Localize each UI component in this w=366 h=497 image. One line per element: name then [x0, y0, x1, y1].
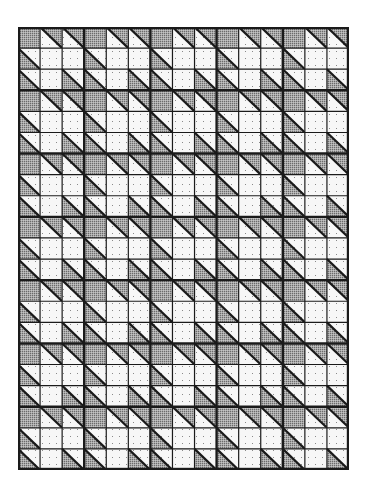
gray-square: [84, 90, 106, 111]
dotted-square: [106, 48, 128, 69]
gray-square: [84, 154, 106, 175]
dotted-square: [62, 238, 84, 259]
dotted-square: [305, 259, 327, 280]
dotted-square: [106, 175, 128, 196]
dotted-square: [40, 386, 62, 407]
dotted-square: [172, 69, 194, 90]
dotted-square: [261, 175, 283, 196]
dotted-square: [305, 48, 327, 69]
dotted-square: [305, 196, 327, 217]
dotted-square: [327, 111, 349, 132]
dotted-square: [305, 111, 327, 132]
gray-square: [84, 407, 106, 428]
dotted-square: [305, 175, 327, 196]
gray-square: [283, 217, 305, 238]
dotted-square: [305, 322, 327, 343]
dotted-square: [327, 48, 349, 69]
gray-square: [84, 27, 106, 48]
dotted-square: [305, 238, 327, 259]
gray-square: [217, 90, 239, 111]
dotted-square: [239, 301, 261, 322]
dotted-square: [239, 69, 261, 90]
gray-square: [150, 407, 172, 428]
gray-square: [18, 280, 40, 301]
dotted-square: [40, 48, 62, 69]
dotted-square: [62, 365, 84, 386]
dotted-square: [106, 365, 128, 386]
dotted-square: [128, 365, 150, 386]
dotted-square: [172, 132, 194, 153]
gray-square: [283, 90, 305, 111]
dotted-square: [305, 132, 327, 153]
dotted-square: [40, 428, 62, 449]
gray-square: [150, 90, 172, 111]
dotted-square: [239, 238, 261, 259]
dotted-square: [172, 111, 194, 132]
dotted-square: [172, 322, 194, 343]
dotted-square: [40, 365, 62, 386]
dotted-square: [128, 238, 150, 259]
dotted-square: [106, 428, 128, 449]
dotted-square: [106, 132, 128, 153]
dotted-square: [305, 449, 327, 470]
dotted-square: [195, 428, 217, 449]
dotted-square: [106, 386, 128, 407]
dotted-square: [195, 111, 217, 132]
dotted-square: [327, 175, 349, 196]
dotted-square: [40, 238, 62, 259]
dotted-square: [305, 69, 327, 90]
dotted-square: [305, 386, 327, 407]
dotted-square: [195, 301, 217, 322]
gray-square: [84, 343, 106, 364]
dotted-square: [40, 175, 62, 196]
dotted-square: [40, 259, 62, 280]
dotted-square: [40, 322, 62, 343]
dotted-square: [239, 322, 261, 343]
dotted-square: [62, 428, 84, 449]
gray-square: [150, 343, 172, 364]
dotted-square: [106, 259, 128, 280]
dotted-square: [195, 365, 217, 386]
gray-square: [217, 154, 239, 175]
dotted-square: [40, 69, 62, 90]
dotted-square: [128, 428, 150, 449]
dotted-square: [172, 428, 194, 449]
dotted-square: [305, 428, 327, 449]
gray-square: [18, 154, 40, 175]
dotted-square: [239, 386, 261, 407]
gray-square: [84, 280, 106, 301]
dotted-square: [172, 48, 194, 69]
quilt-svg: [18, 27, 349, 470]
gray-square: [283, 407, 305, 428]
gray-square: [150, 280, 172, 301]
dotted-square: [305, 301, 327, 322]
dotted-square: [261, 111, 283, 132]
dotted-square: [40, 196, 62, 217]
dotted-square: [106, 238, 128, 259]
dotted-square: [261, 48, 283, 69]
dotted-square: [327, 365, 349, 386]
dotted-square: [239, 449, 261, 470]
dotted-square: [106, 301, 128, 322]
dotted-square: [62, 301, 84, 322]
dotted-square: [172, 196, 194, 217]
dotted-square: [106, 111, 128, 132]
gray-square: [217, 217, 239, 238]
gray-square: [217, 280, 239, 301]
dotted-square: [172, 449, 194, 470]
dotted-square: [62, 111, 84, 132]
dotted-square: [239, 175, 261, 196]
dotted-square: [128, 48, 150, 69]
dotted-square: [172, 365, 194, 386]
dotted-square: [62, 175, 84, 196]
dotted-square: [40, 111, 62, 132]
dotted-square: [261, 301, 283, 322]
gray-square: [150, 27, 172, 48]
dotted-square: [106, 69, 128, 90]
dotted-square: [327, 428, 349, 449]
dotted-square: [172, 259, 194, 280]
dotted-square: [128, 301, 150, 322]
dotted-square: [40, 449, 62, 470]
dotted-square: [261, 238, 283, 259]
dotted-square: [172, 301, 194, 322]
